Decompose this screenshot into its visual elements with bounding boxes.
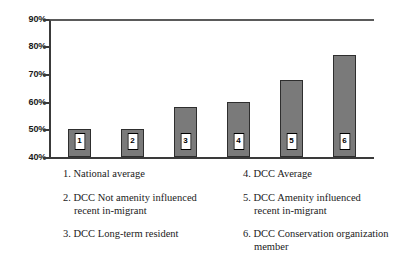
y-axis-tick-label-70: 70% [12,70,46,79]
legend-item-5-line1: 5. DCC Amenity influenced [243,192,361,203]
legend-item-2-line1: 2. DCC Not amenity influenced [63,192,197,203]
legend-item-5: 5. DCC Amenity influenced recent in-migr… [243,192,409,217]
legend-item-5-line2: recent in-migrant [243,205,409,218]
legend-item-1: 1. National average [63,168,233,181]
y-axis-tick-label-60: 60% [12,98,46,107]
legend-item-6-line2: member [243,241,409,254]
legend-item-6: 6. DCC Conservation organization member [243,228,409,253]
bar-label-3: 3 [180,133,191,150]
bar-2: 2 [121,129,144,157]
y-axis-tick-label-90: 90% [12,15,46,24]
legend-item-2-line2: recent in-migrant [63,205,233,218]
x-axis-baseline [49,157,374,159]
legend-item-3-line1: 3. DCC Long-term resident [63,228,178,239]
legend-item-3: 3. DCC Long-term resident [63,228,233,241]
plot-area: 1 2 3 4 5 6 [49,19,374,157]
bar-5: 5 [280,80,303,157]
bar-6: 6 [333,55,356,157]
bar-1: 1 [68,129,91,157]
bar-chart-figure: 90% 80% 70% 60% 50% 40% 1 2 3 4 5 6 [0,0,409,276]
y-axis-tick-label-50: 50% [12,125,46,134]
bar-label-4: 4 [233,133,244,150]
chart-legend: 1. National average 2. DCC Not amenity i… [0,168,409,276]
legend-item-6-line1: 6. DCC Conservation organization [243,228,389,239]
y-axis-tick-label-40: 40% [12,153,46,162]
bar-label-6: 6 [339,133,350,150]
bar-label-5: 5 [286,133,297,150]
bar-4: 4 [227,102,250,157]
y-axis-tick-label-80: 80% [12,42,46,51]
legend-item-4: 4. DCC Average [243,168,409,181]
legend-item-4-line1: 4. DCC Average [243,168,312,179]
bar-3: 3 [174,107,197,157]
bar-label-2: 2 [127,133,138,150]
bar-label-1: 1 [74,133,85,150]
legend-item-2: 2. DCC Not amenity influenced recent in-… [63,192,233,217]
legend-item-1-line1: 1. National average [63,168,145,179]
